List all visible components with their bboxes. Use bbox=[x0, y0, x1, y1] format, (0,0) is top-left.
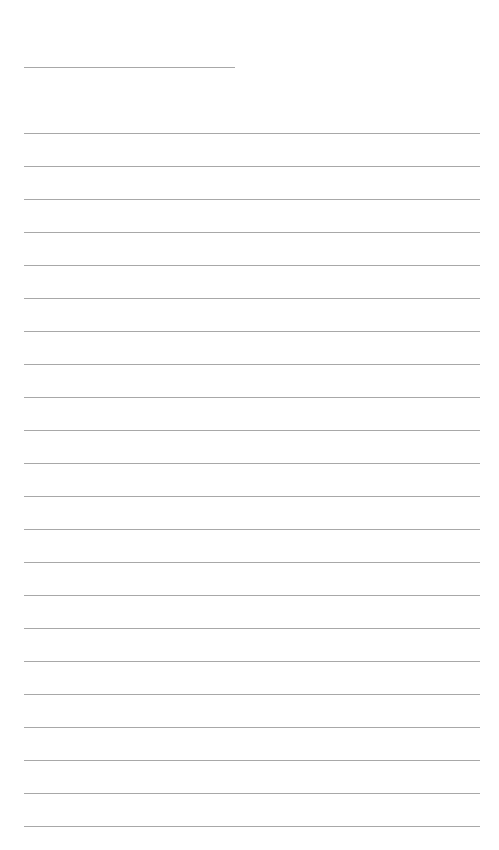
ruled-line bbox=[24, 430, 480, 431]
ruled-line bbox=[24, 562, 480, 563]
ruled-line bbox=[24, 496, 480, 497]
ruled-line bbox=[24, 463, 480, 464]
ruled-line bbox=[24, 364, 480, 365]
ruled-line bbox=[24, 760, 480, 761]
ruled-line bbox=[24, 661, 480, 662]
ruled-line bbox=[24, 628, 480, 629]
title-line bbox=[24, 67, 235, 68]
ruled-line bbox=[24, 232, 480, 233]
ruled-line bbox=[24, 727, 480, 728]
ruled-line bbox=[24, 793, 480, 794]
ruled-line bbox=[24, 133, 480, 134]
ruled-line bbox=[24, 331, 480, 332]
ruled-line bbox=[24, 694, 480, 695]
ruled-line bbox=[24, 595, 480, 596]
ruled-line bbox=[24, 199, 480, 200]
ruled-line bbox=[24, 298, 480, 299]
ruled-line bbox=[24, 166, 480, 167]
ruled-line bbox=[24, 826, 480, 827]
ruled-line bbox=[24, 529, 480, 530]
ruled-line bbox=[24, 265, 480, 266]
ruled-line bbox=[24, 397, 480, 398]
